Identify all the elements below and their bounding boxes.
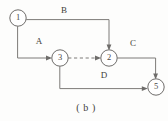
edge-label-d: D	[101, 70, 108, 80]
figure-caption: ( b )	[76, 102, 96, 114]
node-5-label: 5	[154, 81, 158, 91]
node-3[interactable]: 3	[52, 50, 68, 66]
node-1[interactable]: 1	[10, 10, 26, 26]
edge-d-arrowhead	[142, 86, 148, 91]
edge-a-arrowhead	[46, 56, 52, 61]
node-3-label: 3	[58, 52, 62, 62]
edge-c-path	[117, 58, 155, 77]
activity-network-diagram: 1 3 2 5 B A C D ( b )	[0, 0, 168, 121]
edge-label-b: B	[61, 5, 67, 15]
figure-container: 1 3 2 5 B A C D ( b )	[0, 0, 168, 121]
edge-label-a: A	[36, 36, 43, 46]
node-2-label: 2	[107, 52, 111, 62]
edge-a-path	[18, 26, 50, 58]
edge-c	[117, 58, 158, 79]
edge-label-c: C	[130, 38, 136, 48]
node-5[interactable]: 5	[148, 79, 164, 95]
node-2[interactable]: 2	[101, 50, 117, 66]
edge-dummy-arrowhead	[95, 56, 101, 61]
node-1-label: 1	[16, 12, 20, 22]
edge-dummy-dashed	[68, 56, 101, 61]
